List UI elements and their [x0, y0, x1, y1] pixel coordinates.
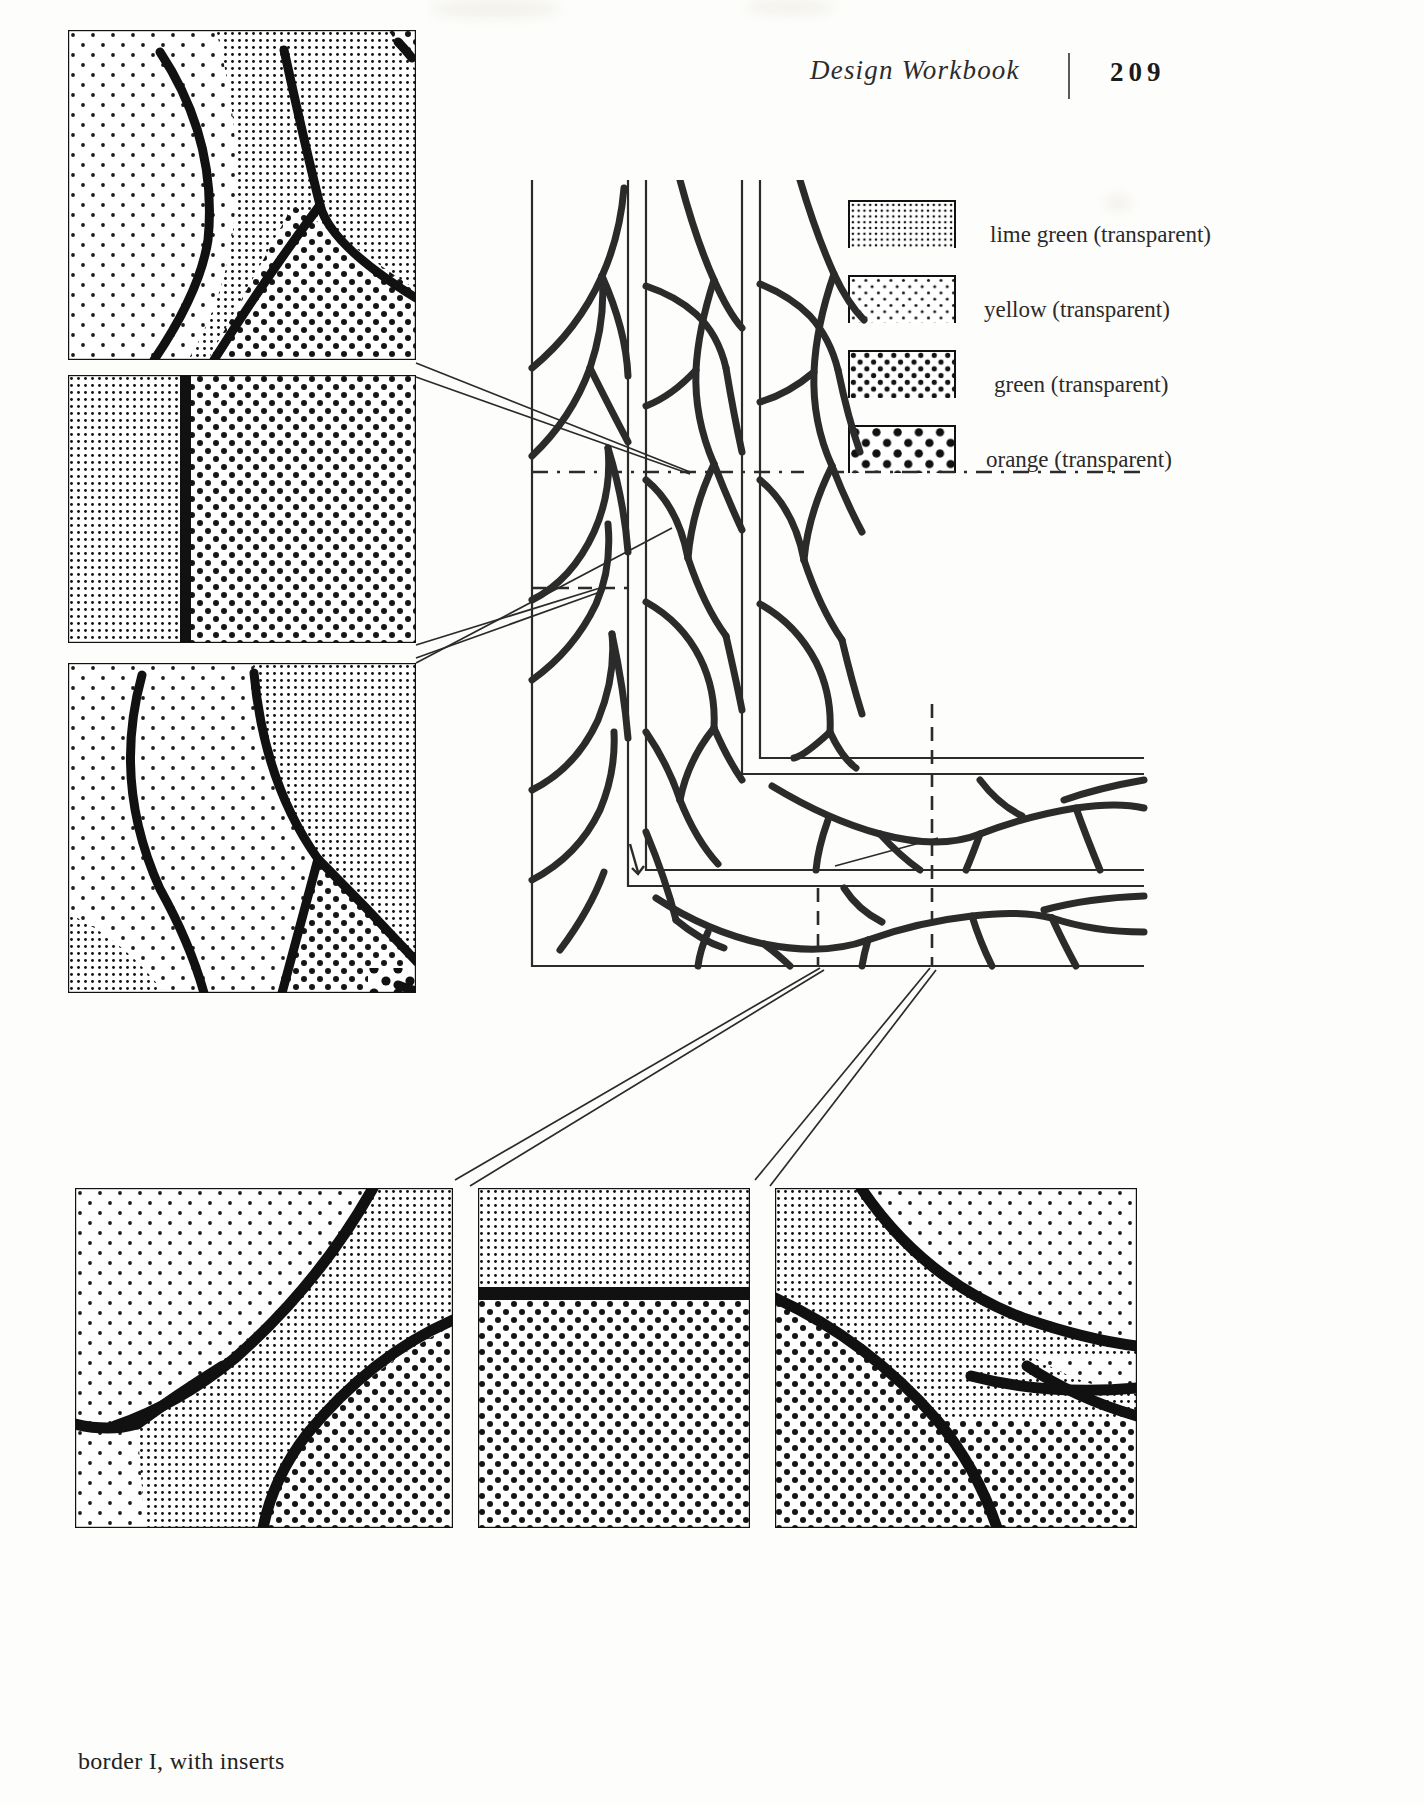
page-title: Design Workbook: [810, 55, 1020, 86]
main-border-diagram: [528, 180, 1148, 970]
section-line-dashed: [532, 588, 932, 966]
detail-panel-middle-left: [68, 375, 416, 643]
lead-lines-outer-vertical: [532, 188, 628, 950]
workbook-page: Design Workbook 209 lime green (transpar…: [0, 0, 1424, 1805]
figure-caption: border I, with inserts: [78, 1748, 285, 1775]
header-divider: [1068, 53, 1070, 99]
page-number: 209: [1110, 57, 1166, 88]
scan-smudge: [430, 0, 560, 18]
detail-panel-lower-left: [68, 663, 416, 993]
scan-smudge: [745, 0, 835, 14]
running-head: Design Workbook 209: [810, 55, 1370, 105]
lead-lines-outer-horizontal: [772, 780, 1144, 870]
lead-lines-inner-horizontal: [656, 888, 1144, 966]
lead-lines-inner-vertical: [760, 180, 864, 768]
detail-panel-bottom-center: [478, 1188, 750, 1528]
detail-panel-bottom-left: [75, 1188, 453, 1528]
detail-panel-bottom-right: [775, 1188, 1137, 1528]
direction-arrow: [630, 844, 644, 874]
lead-lines-middle-vertical: [646, 180, 742, 948]
detail-panel-top-left: [68, 30, 416, 360]
